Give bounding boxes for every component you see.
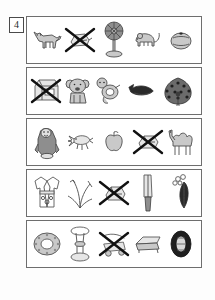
picture-cell-fox[interactable] bbox=[32, 18, 62, 62]
sea-otter-icon bbox=[95, 76, 125, 106]
exercise-number-badge: 4 bbox=[9, 17, 24, 33]
picture-cell-crossed-4[interactable] bbox=[99, 171, 129, 215]
worksheet-row[interactable] bbox=[26, 169, 202, 217]
worksheet-rows-container bbox=[26, 16, 202, 268]
donut-ring-icon bbox=[32, 231, 62, 257]
picture-cell-crab[interactable] bbox=[65, 120, 95, 164]
crossed-machine-icon bbox=[31, 76, 61, 106]
worksheet-row[interactable] bbox=[26, 16, 202, 64]
picture-cell-crossed-1[interactable] bbox=[65, 18, 95, 62]
crossed-object-icon bbox=[66, 28, 94, 52]
picture-cell-mouse[interactable] bbox=[133, 18, 163, 62]
gorilla-icon bbox=[34, 124, 60, 160]
picture-cell-gorilla[interactable] bbox=[32, 120, 62, 164]
fox-icon bbox=[32, 27, 62, 53]
picture-cell-kimono[interactable] bbox=[32, 171, 62, 215]
crossed-object-icon bbox=[100, 182, 128, 204]
apple-icon bbox=[103, 130, 125, 154]
worksheet-row[interactable] bbox=[26, 67, 202, 115]
worksheet-row[interactable] bbox=[26, 118, 202, 166]
picture-cell-donut[interactable] bbox=[32, 222, 62, 266]
koala-icon bbox=[65, 76, 91, 106]
picture-cell-grass[interactable] bbox=[65, 171, 95, 215]
crossed-object-icon bbox=[134, 130, 162, 154]
picture-cell-fan[interactable] bbox=[99, 18, 129, 62]
picture-cell-bench[interactable] bbox=[133, 222, 163, 266]
picture-cell-sea-otter[interactable] bbox=[95, 69, 125, 113]
picture-cell-orange[interactable] bbox=[166, 18, 196, 62]
pedestal-stand-icon bbox=[68, 225, 92, 263]
picture-cell-apple[interactable] bbox=[99, 120, 129, 164]
cleaver-knife-icon bbox=[139, 173, 157, 213]
peacock-icon bbox=[159, 74, 197, 108]
worksheet-row[interactable] bbox=[26, 220, 202, 268]
crossed-cart-icon bbox=[99, 230, 129, 258]
kimono-icon bbox=[33, 173, 61, 213]
picture-cell-whale[interactable] bbox=[127, 69, 157, 113]
crab-icon bbox=[66, 131, 94, 153]
orange-fruit-icon bbox=[169, 29, 193, 51]
bench-sofa-icon bbox=[133, 233, 163, 255]
electric-fan-icon bbox=[101, 21, 127, 59]
tire-icon bbox=[169, 230, 193, 258]
picture-cell-crossed-2[interactable] bbox=[31, 69, 61, 113]
picture-cell-peacock[interactable] bbox=[159, 69, 197, 113]
grass-plant-icon bbox=[67, 176, 93, 210]
picture-cell-camel[interactable] bbox=[166, 120, 196, 164]
worksheet-page: 4 bbox=[0, 0, 215, 300]
picture-cell-tire[interactable] bbox=[166, 222, 196, 266]
feather-plume-icon bbox=[170, 174, 192, 212]
picture-cell-crossed-5[interactable] bbox=[99, 222, 129, 266]
picture-cell-pedestal[interactable] bbox=[65, 222, 95, 266]
picture-cell-crossed-3[interactable] bbox=[133, 120, 163, 164]
camel-icon bbox=[167, 126, 195, 158]
picture-cell-cleaver[interactable] bbox=[133, 171, 163, 215]
picture-cell-koala[interactable] bbox=[63, 69, 93, 113]
mouse-icon bbox=[133, 29, 163, 51]
picture-cell-feather[interactable] bbox=[166, 171, 196, 215]
whale-icon bbox=[127, 81, 157, 101]
